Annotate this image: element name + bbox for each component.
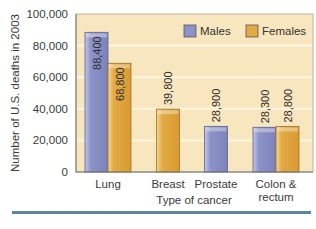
legend-swatch-females [246, 25, 258, 37]
bar-top-bevel [158, 110, 179, 114]
value-label: 88,400 [91, 36, 103, 70]
value-label: 39,800 [162, 71, 174, 105]
bar-top-bevel [254, 128, 275, 132]
legend-swatch-males [184, 25, 196, 37]
value-label: 28,300 [259, 90, 271, 124]
bar-males-prostate [205, 126, 228, 172]
bar-females-colon-rectum [276, 126, 299, 172]
x-tick-label: Colon & [256, 178, 297, 190]
y-axis-title: Number of U.S. deaths in 2003 [9, 14, 21, 172]
y-tick-label: 80,000 [33, 40, 68, 52]
bottom-divider [12, 211, 311, 214]
x-tick-label: Prostate [195, 178, 238, 190]
y-tick-label: 60,000 [33, 71, 68, 83]
legend-label-males: Males [200, 25, 231, 37]
legend-label-females: Females [262, 25, 306, 37]
bar-females-breast [157, 109, 180, 172]
value-label: 68,800 [114, 67, 126, 101]
bar-chart: 88,40068,80039,80028,90028,30028,800 020… [0, 0, 316, 229]
x-tick-label: Breast [151, 178, 185, 190]
bar-males-colon-rectum [253, 127, 276, 172]
value-label: 28,900 [210, 89, 222, 123]
y-tick-label: 100,000 [26, 8, 68, 20]
value-label: 28,800 [282, 89, 294, 123]
y-tick-label: 20,000 [33, 134, 68, 146]
bar-top-bevel [277, 127, 298, 131]
y-tick-label: 40,000 [33, 103, 68, 115]
x-axis-title: Type of cancer [156, 194, 232, 206]
x-tick-label: rectum [258, 191, 293, 203]
y-tick-label: 0 [62, 166, 68, 178]
bar-top-bevel [206, 127, 227, 131]
x-tick-label: Lung [95, 178, 121, 190]
